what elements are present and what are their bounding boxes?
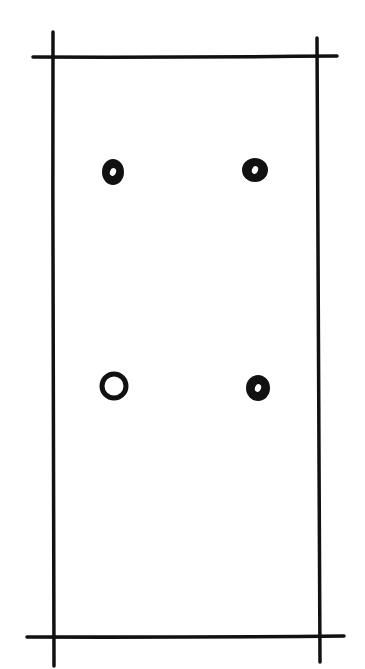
dots-group [102,158,270,401]
sketch-diagram [0,0,365,669]
dot-bottom-left [102,374,126,398]
dot-top-right [242,158,268,182]
dot-bottom-right [246,375,270,401]
frame-line-left [53,32,54,666]
frame-lines [27,32,344,666]
frame-line-right [317,38,320,662]
dot-top-left [102,159,124,185]
frame-line-top [33,56,337,57]
frame-line-bottom [27,636,344,637]
